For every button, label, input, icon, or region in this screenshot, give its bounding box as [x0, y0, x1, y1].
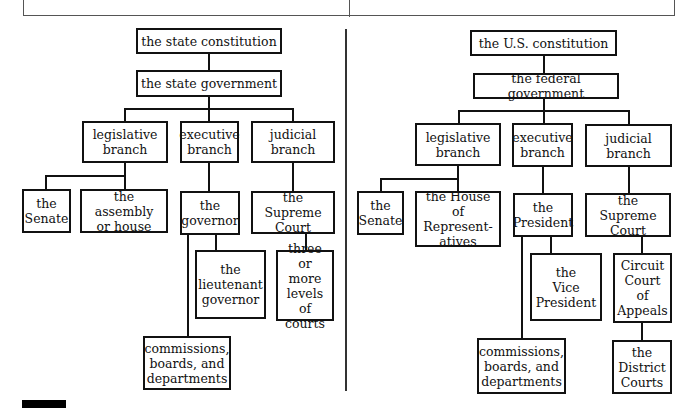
- federal-commissions-box: commissions, boards, and departments: [477, 338, 566, 394]
- connector: [208, 162, 210, 192]
- connector: [521, 235, 523, 339]
- governor-box: the governor: [180, 191, 240, 235]
- us-constitution-box: the U.S. constitution: [470, 30, 617, 56]
- connector: [215, 233, 217, 251]
- federal-government-box: the federal government: [473, 73, 619, 99]
- state-senate-box: the Senate: [22, 189, 71, 233]
- state-supreme-court-box: the Supreme Court: [251, 191, 335, 234]
- top-frame-divider: [349, 0, 350, 17]
- lieutenant-governor-box: the lieutenant governor: [195, 250, 266, 319]
- us-senate-box: the Senate: [357, 191, 404, 235]
- center-divider: [345, 29, 347, 391]
- president-box: the President: [513, 193, 573, 237]
- district-courts-box: the District Courts: [612, 340, 672, 394]
- state-constitution-box: the state constitution: [136, 28, 282, 54]
- connector: [458, 110, 460, 124]
- connector: [45, 175, 125, 177]
- federal-executive-branch-box: executive branch: [512, 123, 573, 167]
- circuit-court-of-appeals-box: Circuit Court of Appeals: [613, 253, 672, 323]
- state-assembly-box: the assembly or house: [80, 189, 168, 233]
- black-marker-bar: [22, 400, 66, 408]
- connector: [292, 162, 294, 192]
- house-of-representatives-box: the House of Represent- atives: [415, 191, 501, 247]
- connector: [380, 178, 382, 192]
- state-executive-branch-box: executive branch: [180, 121, 239, 163]
- connector: [550, 235, 552, 254]
- connector: [380, 178, 458, 180]
- state-judicial-branch-box: judicial branch: [251, 121, 335, 163]
- connector: [542, 165, 544, 194]
- state-lower-courts-box: three or more levels of courts: [276, 250, 334, 321]
- us-supreme-court-box: the Supreme Court: [585, 193, 671, 237]
- vice-president-box: the Vice President: [530, 253, 602, 321]
- connector: [187, 233, 189, 337]
- connector: [628, 165, 630, 194]
- federal-legislative-branch-box: legislative branch: [415, 123, 501, 166]
- connector: [208, 108, 210, 122]
- federal-judicial-branch-box: judicial branch: [585, 124, 672, 167]
- state-commissions-box: commissions, boards, and departments: [143, 336, 231, 390]
- connector: [45, 175, 47, 190]
- connector: [124, 108, 126, 122]
- connector: [641, 321, 643, 341]
- connector: [543, 110, 545, 124]
- connector: [628, 110, 630, 125]
- state-legislative-branch-box: legislative branch: [82, 121, 168, 163]
- connector: [208, 53, 210, 71]
- state-government-box: the state government: [136, 70, 282, 97]
- connector: [292, 108, 294, 122]
- connector: [641, 235, 643, 254]
